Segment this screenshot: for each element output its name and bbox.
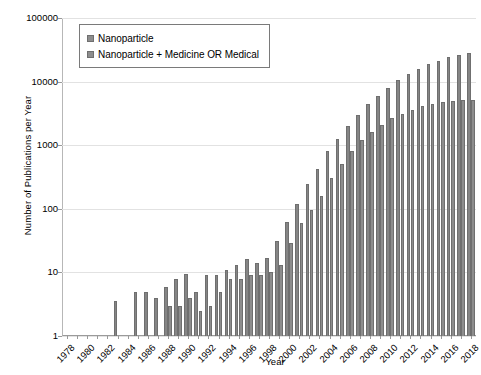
bar xyxy=(421,106,425,336)
bar-group xyxy=(456,18,466,336)
bar xyxy=(376,96,380,336)
bar xyxy=(380,125,384,336)
bar xyxy=(326,151,330,336)
y-tick-mark xyxy=(58,336,62,337)
bar-group xyxy=(314,18,324,336)
y-axis-tick-labels: 100000100001000100101 xyxy=(0,0,58,375)
y-tick-label: 10000 xyxy=(14,77,58,87)
bar xyxy=(336,139,340,336)
bar xyxy=(285,222,289,336)
y-tick-label: 1000 xyxy=(14,140,58,150)
bar xyxy=(215,275,219,336)
bar xyxy=(168,306,172,336)
bar xyxy=(134,292,138,336)
bar xyxy=(447,57,451,336)
bar xyxy=(269,272,273,336)
bar xyxy=(249,275,253,336)
bar xyxy=(225,270,229,336)
legend-item-nanoparticle: Nanoparticle xyxy=(87,30,259,46)
bar xyxy=(340,164,344,336)
bar-group xyxy=(355,18,365,336)
bar-group xyxy=(405,18,415,336)
bar xyxy=(178,306,182,336)
bar-group xyxy=(325,18,335,336)
bar xyxy=(194,292,198,336)
bar xyxy=(390,118,394,336)
bar xyxy=(330,178,334,336)
bar-group xyxy=(284,18,294,336)
bar xyxy=(188,298,192,336)
bar xyxy=(306,184,310,337)
bar-group xyxy=(375,18,385,336)
bar xyxy=(300,223,304,336)
bar xyxy=(370,132,374,336)
bar xyxy=(209,306,213,336)
bar-group xyxy=(274,18,284,336)
bar xyxy=(229,279,233,336)
bar xyxy=(441,102,445,336)
bar-group xyxy=(446,18,456,336)
bar xyxy=(427,64,431,336)
legend-swatch-icon xyxy=(87,35,94,42)
bar-group xyxy=(426,18,436,336)
bar xyxy=(457,55,461,336)
bar xyxy=(219,292,223,336)
bar-group xyxy=(62,18,72,336)
legend-label: Nanoparticle xyxy=(98,33,154,44)
bar xyxy=(356,115,360,336)
bar-group xyxy=(466,18,476,336)
bar xyxy=(310,210,314,336)
bar-group xyxy=(436,18,446,336)
bar xyxy=(205,275,209,336)
bar xyxy=(255,263,259,336)
y-tick-label: 100 xyxy=(14,204,58,214)
bar xyxy=(235,265,239,336)
legend-label: Nanoparticle + Medicine OR Medical xyxy=(98,49,259,60)
y-tick-label: 10 xyxy=(14,267,58,277)
bar xyxy=(275,241,279,336)
bar xyxy=(467,53,471,336)
bar xyxy=(239,279,243,336)
legend-item-nanoparticle-medicine: Nanoparticle + Medicine OR Medical xyxy=(87,46,259,62)
bar xyxy=(411,110,415,336)
bar xyxy=(451,101,455,336)
legend-swatch-icon xyxy=(87,51,94,58)
bar xyxy=(144,292,148,336)
bar xyxy=(184,274,188,336)
x-axis-title: Year xyxy=(245,356,305,367)
bar xyxy=(174,279,178,336)
bar-group xyxy=(385,18,395,336)
bar xyxy=(259,275,263,336)
bar xyxy=(279,265,283,336)
bar-group xyxy=(294,18,304,336)
bar xyxy=(386,88,390,336)
bar xyxy=(401,114,405,336)
bar xyxy=(245,259,249,336)
publications-bar-chart: Number of Publications per Year 10000010… xyxy=(0,0,481,375)
bar xyxy=(320,196,324,336)
bar xyxy=(350,151,354,336)
bar xyxy=(437,61,441,336)
bar xyxy=(199,311,203,336)
bar xyxy=(346,126,350,336)
bar xyxy=(316,169,320,336)
bar xyxy=(407,74,411,336)
bar xyxy=(461,100,465,336)
chart-legend: Nanoparticle Nanoparticle + Medicine OR … xyxy=(79,24,270,68)
bar-group xyxy=(395,18,405,336)
bar-group xyxy=(415,18,425,336)
bar xyxy=(471,100,475,336)
bar xyxy=(417,69,421,336)
y-tick-label: 1 xyxy=(14,331,58,341)
bar xyxy=(360,140,364,336)
bar xyxy=(114,301,118,336)
y-tick-label: 100000 xyxy=(14,13,58,23)
bar-group xyxy=(304,18,314,336)
bar xyxy=(396,80,400,336)
bar xyxy=(154,298,158,336)
bar xyxy=(164,287,168,336)
bar-group xyxy=(345,18,355,336)
bar xyxy=(265,258,269,336)
bar xyxy=(366,104,370,336)
bar-group xyxy=(335,18,345,336)
